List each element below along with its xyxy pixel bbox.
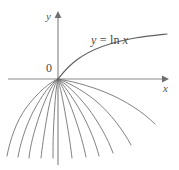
axes-group bbox=[8, 11, 169, 165]
family-curve-5 bbox=[53, 79, 58, 158]
family-curve-1 bbox=[7, 79, 58, 156]
origin-label: 0 bbox=[46, 62, 52, 74]
y-axis-label: y bbox=[46, 11, 51, 22]
curve-family-group bbox=[7, 79, 155, 158]
equation-ln: ln bbox=[110, 33, 120, 47]
math-figure: y x 0 y = ln x bbox=[0, 0, 179, 170]
curve-equation-label: y = ln x bbox=[91, 34, 128, 46]
equation-argument: x bbox=[123, 33, 129, 47]
family-curve-6 bbox=[58, 79, 72, 158]
x-axis-label: x bbox=[163, 83, 168, 94]
equation-operator: = bbox=[97, 33, 110, 47]
y-axis-arrow-icon bbox=[55, 11, 62, 18]
family-curve-9 bbox=[58, 79, 113, 153]
family-curve-2 bbox=[18, 79, 58, 157]
plot-canvas bbox=[0, 0, 179, 170]
